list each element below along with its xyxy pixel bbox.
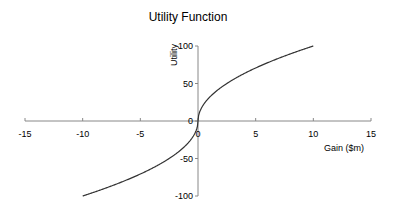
- y-tick-label: 100: [178, 41, 193, 51]
- y-axis-label: Utility: [169, 44, 179, 66]
- x-tick-label: 5: [253, 129, 258, 139]
- y-tick-label: -50: [180, 154, 193, 164]
- utility-chart: Utility Function -15-10-5051015-100-5005…: [0, 0, 395, 211]
- x-tick-label: -10: [76, 129, 89, 139]
- x-tick-label: -15: [18, 129, 31, 139]
- y-tick-label: -100: [175, 191, 193, 201]
- y-tick-label: 50: [183, 79, 193, 89]
- x-tick-label: 15: [366, 129, 376, 139]
- y-tick-label: 0: [188, 116, 193, 126]
- x-tick-label: -5: [136, 129, 144, 139]
- chart-title: Utility Function: [149, 10, 228, 24]
- x-tick-label: 10: [308, 129, 318, 139]
- x-axis-label: Gain ($m): [324, 143, 364, 153]
- axes: -15-10-5051015-100-50050100: [18, 41, 376, 201]
